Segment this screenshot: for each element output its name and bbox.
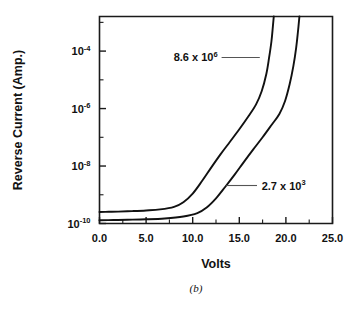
y-axis-title: Reverse Current (Amp.) (11, 50, 25, 190)
x-tick-label: 5.0 (138, 232, 153, 244)
series-annotations-group: 8.6 x 1062.7 x 103 (174, 50, 306, 192)
axis-frame (100, 17, 333, 224)
x-axis-title: Volts (201, 257, 231, 271)
x-tick-label: 10.0 (182, 232, 203, 244)
x-tick-label: 15.0 (229, 232, 250, 244)
y-tick-label: 10-8 (72, 159, 91, 173)
figure-caption: (b) (190, 282, 203, 295)
plot-frame (100, 17, 333, 224)
y-axis-tick-labels: 10-1010-810-610-4 (67, 44, 91, 230)
x-tick-label: 20.0 (275, 232, 296, 244)
annotation-label: 8.6 x 106 (174, 50, 218, 64)
x-axis-tick-labels: 0.05.010.015.020.025.0 (92, 232, 343, 244)
y-tick-label: 10-6 (72, 101, 91, 115)
y-tick-label: 10-10 (67, 216, 90, 230)
x-tick-label: 25.0 (322, 232, 343, 244)
x-tick-label: 0.0 (92, 232, 107, 244)
figure-container: 0.05.010.015.020.025.0 10-1010-810-610-4… (0, 0, 361, 309)
curve-series-1 (100, 17, 274, 213)
y-tick-label: 10-4 (72, 44, 92, 58)
annotation-label: 2.7 x 103 (262, 178, 306, 192)
reverse-current-vs-volts-chart: 0.05.010.015.020.025.0 10-1010-810-610-4… (0, 0, 361, 309)
